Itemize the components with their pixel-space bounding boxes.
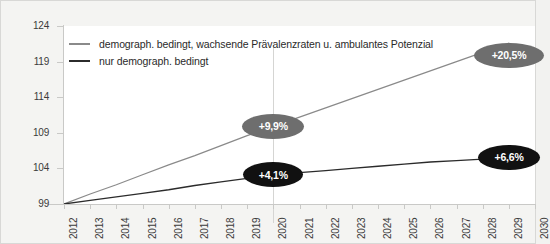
x-tick-label: 2027: [461, 218, 472, 239]
x-tick-mark: [483, 204, 484, 209]
legend-label-demographic-prevalence-ambulatory: demograph. bedingt, wachsende Prävalenzr…: [99, 38, 433, 50]
x-tick-label: 2013: [94, 218, 105, 239]
x-tick-label: 2023: [356, 218, 367, 239]
chart-inner-panel: 99104109114119124 2012201320142015201620…: [7, 7, 531, 239]
legend-swatch-light: [69, 43, 90, 45]
x-tick-mark: [300, 204, 301, 209]
x-tick-mark: [457, 204, 458, 209]
x-tick-mark: [535, 204, 536, 209]
y-tick-label: 119: [19, 56, 49, 67]
x-tick-label: 2030: [539, 218, 550, 239]
x-tick-label: 2029: [513, 218, 524, 239]
y-tick-mark: [57, 26, 63, 27]
legend-item-demographic-prevalence-ambulatory: demograph. bedingt, wachsende Prävalenzr…: [69, 35, 433, 52]
y-tick-label: 114: [19, 91, 49, 102]
x-tick-mark: [169, 204, 170, 209]
x-tick-mark: [221, 204, 222, 209]
x-tick-label: 2020: [277, 218, 288, 239]
x-tick-mark: [64, 204, 65, 209]
y-tick-mark: [57, 204, 63, 205]
x-tick-mark: [143, 204, 144, 209]
y-tick-label: 104: [19, 162, 49, 173]
x-tick-label: 2012: [68, 218, 79, 239]
x-tick-label: 2016: [173, 218, 184, 239]
x-tick-mark: [195, 204, 196, 209]
x-tick-mark: [116, 204, 117, 209]
legend-swatch-dark: [69, 60, 90, 62]
y-tick-mark: [57, 133, 63, 134]
x-tick-label: 2025: [408, 218, 419, 239]
x-axis-line: [47, 204, 535, 205]
x-tick-label: 2017: [199, 218, 210, 239]
data-label-black-2030: +6,6%: [478, 145, 540, 170]
y-axis-line: [63, 25, 64, 205]
chart-legend: demograph. bedingt, wachsende Prävalenzr…: [69, 35, 433, 69]
series-line-demographic-only: [64, 157, 535, 204]
x-tick-label: 2014: [120, 218, 131, 239]
y-tick-mark: [57, 62, 63, 63]
y-tick-label: 124: [19, 20, 49, 31]
x-tick-mark: [352, 204, 353, 209]
y-tick-mark: [57, 97, 63, 98]
x-tick-label: 2019: [251, 218, 262, 239]
x-tick-mark: [378, 204, 379, 209]
x-tick-label: 2015: [147, 218, 158, 239]
x-tick-mark: [430, 204, 431, 209]
x-tick-label: 2022: [330, 218, 341, 239]
x-tick-label: 2021: [304, 218, 315, 239]
x-tick-mark: [273, 204, 274, 209]
data-label-gray-2020: +9,9%: [242, 114, 304, 139]
x-tick-mark: [404, 204, 405, 209]
x-tick-label: 2026: [434, 218, 445, 239]
y-tick-label: 99: [19, 198, 49, 209]
legend-label-demographic-only: nur demograph. bedingt: [99, 55, 208, 67]
x-tick-label: 2024: [382, 218, 393, 239]
x-tick-mark: [90, 204, 91, 209]
x-tick-mark: [247, 204, 248, 209]
legend-item-demographic-only: nur demograph. bedingt: [69, 52, 433, 69]
x-tick-mark: [326, 204, 327, 209]
data-label-gray-2030: +20,5%: [474, 43, 544, 68]
x-tick-label: 2018: [225, 218, 236, 239]
x-tick-label: 2028: [487, 218, 498, 239]
y-tick-mark: [57, 168, 63, 169]
y-tick-label: 109: [19, 127, 49, 138]
x-tick-mark: [509, 204, 510, 209]
